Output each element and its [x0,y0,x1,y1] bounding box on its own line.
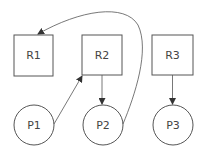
process-p1-label: P1 [27,119,41,132]
process-p3: P3 [153,105,193,145]
process-p2: P2 [83,105,123,145]
resource-r2-label: R2 [95,49,110,62]
process-p1: P1 [14,105,54,145]
process-p3-label: P3 [166,119,180,132]
process-p2-label: P2 [96,119,110,132]
edge-p2-r1 [38,12,142,124]
resource-r2: R2 [82,35,122,75]
resource-r3-label: R3 [165,49,180,62]
resource-allocation-graph: R1 R2 R3 P1 P2 P3 [0,0,205,154]
diagram-canvas: R1 R2 R3 P1 P2 P3 [0,0,205,154]
edge-p1-r2 [54,76,82,124]
resource-r1: R1 [14,35,53,76]
resource-r3: R3 [152,35,193,75]
resource-r1-label: R1 [26,49,41,62]
